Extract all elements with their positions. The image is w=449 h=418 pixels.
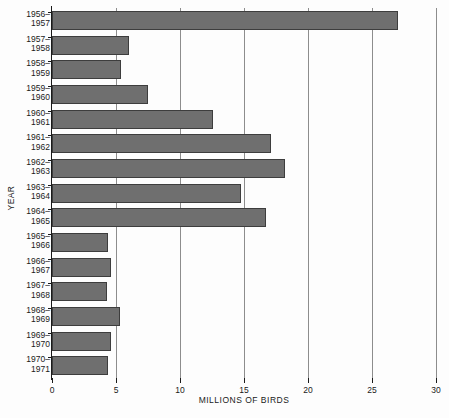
y-tick-label: 1964–1965 (4, 207, 50, 226)
bar-chart: YEAR 1956–19571957–19581958–19591959–196… (0, 0, 449, 418)
bar-row (52, 307, 120, 326)
bar (52, 60, 121, 79)
y-axis-tick-labels: 1956–19571957–19581958–19591959–19601960… (0, 8, 50, 378)
y-tick-label: 1960–1961 (4, 109, 50, 128)
bar-row (52, 258, 111, 277)
y-tick-label: 1956–1957 (4, 10, 50, 29)
y-tick-label-line: 1969 (4, 315, 50, 325)
bar-row (52, 332, 111, 351)
bar-row (52, 60, 121, 79)
gridline-30 (436, 8, 437, 378)
y-tick-label-line: 1957 (4, 19, 50, 29)
y-tick-label-line: 1971 (4, 365, 50, 375)
x-axis-title: MILLIONS OF BIRDS (52, 395, 436, 405)
y-tick-label: 1962–1963 (4, 158, 50, 177)
bar (52, 208, 266, 227)
gridline-20 (308, 8, 309, 378)
y-tick-label-line: 1959 (4, 69, 50, 79)
bar-row (52, 208, 266, 227)
y-tick-label-line: 1962 (4, 143, 50, 153)
x-tick-label-15: 15 (239, 385, 248, 395)
y-tick-label: 1963–1964 (4, 183, 50, 202)
y-tick-label: 1959–1960 (4, 84, 50, 103)
bar (52, 85, 148, 104)
bar (52, 11, 398, 30)
bar-row (52, 282, 107, 301)
bar-row (52, 110, 213, 129)
bar-row (52, 36, 129, 55)
x-tick-mark-15 (244, 378, 245, 383)
y-tick-label: 1965–1966 (4, 232, 50, 251)
gridline-25 (372, 8, 373, 378)
x-tick-label-20: 20 (303, 385, 312, 395)
x-tick-mark-0 (52, 378, 53, 383)
plot-area (52, 8, 436, 378)
y-tick-label-line: 1960 (4, 93, 50, 103)
y-tick-label: 1958–1959 (4, 59, 50, 78)
bar-row (52, 85, 148, 104)
y-tick-label: 1969–1970 (4, 331, 50, 350)
y-tick-label: 1966–1967 (4, 257, 50, 276)
bar (52, 184, 241, 203)
x-tick-mark-20 (308, 378, 309, 383)
y-tick-label-line: 1961 (4, 118, 50, 128)
y-tick-label-line: 1966 (4, 241, 50, 251)
bar (52, 332, 111, 351)
y-tick-label-line: 1967 (4, 266, 50, 276)
bar-row (52, 184, 241, 203)
bar (52, 258, 111, 277)
x-tick-label-30: 30 (431, 385, 440, 395)
x-tick-mark-25 (372, 378, 373, 383)
y-tick-label-line: 1964 (4, 192, 50, 202)
x-tick-mark-10 (180, 378, 181, 383)
y-tick-label: 1957–1958 (4, 35, 50, 54)
gridline-15 (244, 8, 245, 378)
x-tick-label-25: 25 (367, 385, 376, 395)
bar (52, 282, 107, 301)
bar (52, 36, 129, 55)
x-tick-mark-5 (116, 378, 117, 383)
y-tick-label: 1961–1962 (4, 133, 50, 152)
x-tick-mark-30 (436, 378, 437, 383)
bar (52, 134, 271, 153)
y-tick-label: 1967–1968 (4, 281, 50, 300)
x-tick-label-10: 10 (175, 385, 184, 395)
bar (52, 233, 108, 252)
y-tick-label-line: 1958 (4, 44, 50, 54)
bar (52, 159, 285, 178)
x-tick-label-0: 0 (50, 385, 55, 395)
y-tick-label: 1970–1971 (4, 355, 50, 374)
bar-row (52, 356, 108, 375)
bar-row (52, 159, 285, 178)
y-tick-label-line: 1968 (4, 291, 50, 301)
bar-row (52, 11, 398, 30)
bar-row (52, 233, 108, 252)
bar (52, 110, 213, 129)
y-tick-label-line: 1963 (4, 167, 50, 177)
y-tick-label-line: 1970 (4, 340, 50, 350)
bar (52, 356, 108, 375)
y-tick-label: 1968–1969 (4, 306, 50, 325)
y-tick-label-line: 1965 (4, 217, 50, 227)
x-tick-label-5: 5 (114, 385, 119, 395)
bar (52, 307, 120, 326)
bar-row (52, 134, 271, 153)
